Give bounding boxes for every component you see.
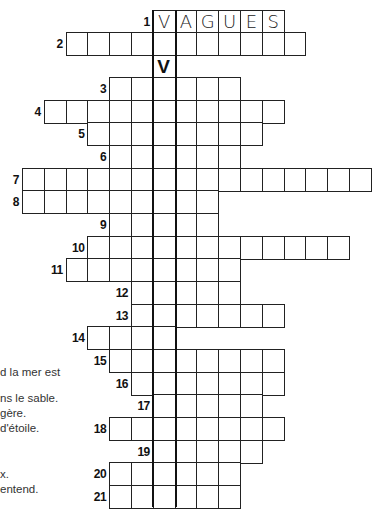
- grid-cell[interactable]: [196, 304, 219, 328]
- grid-cell[interactable]: [109, 485, 132, 509]
- grid-cell[interactable]: [196, 100, 219, 124]
- grid-cell[interactable]: [175, 372, 198, 396]
- grid-cell[interactable]: [153, 236, 176, 260]
- grid-cell[interactable]: [109, 145, 132, 169]
- grid-cell[interactable]: [240, 349, 263, 373]
- grid-cell[interactable]: [87, 258, 110, 282]
- grid-cell[interactable]: [66, 32, 89, 56]
- grid-cell[interactable]: [196, 485, 219, 509]
- grid-cell[interactable]: [131, 304, 154, 328]
- grid-cell[interactable]: [175, 168, 198, 192]
- grid-cell[interactable]: [262, 236, 285, 260]
- grid-cell[interactable]: [196, 190, 219, 214]
- grid-cell[interactable]: [153, 394, 176, 418]
- grid-cell[interactable]: [175, 145, 198, 169]
- grid-cell[interactable]: [175, 417, 198, 441]
- grid-cell[interactable]: [153, 485, 176, 509]
- grid-cell[interactable]: [218, 236, 241, 260]
- grid-cell[interactable]: [196, 394, 219, 418]
- grid-cell[interactable]: [196, 32, 219, 56]
- grid-cell[interactable]: [87, 236, 110, 260]
- grid-cell[interactable]: [305, 236, 328, 260]
- grid-cell[interactable]: [175, 304, 198, 328]
- grid-cell[interactable]: [109, 417, 132, 441]
- grid-cell[interactable]: [218, 485, 241, 509]
- grid-cell[interactable]: [240, 440, 263, 464]
- grid-cell[interactable]: [218, 349, 241, 373]
- grid-cell[interactable]: [131, 236, 154, 260]
- grid-cell[interactable]: [109, 122, 132, 146]
- grid-cell[interactable]: [131, 372, 154, 396]
- grid-cell[interactable]: [66, 168, 89, 192]
- grid-cell[interactable]: [218, 440, 241, 464]
- grid-cell[interactable]: [218, 32, 241, 56]
- grid-cell[interactable]: [153, 304, 176, 328]
- grid-cell[interactable]: [153, 440, 176, 464]
- grid-cell[interactable]: [240, 394, 263, 418]
- grid-cell[interactable]: [22, 168, 45, 192]
- grid-cell[interactable]: [131, 326, 154, 350]
- grid-cell[interactable]: [109, 213, 132, 237]
- grid-cell[interactable]: [262, 417, 285, 441]
- grid-cell[interactable]: [240, 417, 263, 441]
- grid-cell[interactable]: [131, 190, 154, 214]
- grid-cell[interactable]: G: [196, 10, 219, 34]
- grid-cell[interactable]: [109, 258, 132, 282]
- grid-cell[interactable]: [175, 281, 198, 305]
- grid-cell[interactable]: [175, 100, 198, 124]
- grid-cell[interactable]: U: [218, 10, 241, 34]
- grid-cell[interactable]: [153, 32, 176, 56]
- grid-cell[interactable]: [22, 190, 45, 214]
- grid-cell[interactable]: [131, 77, 154, 101]
- grid-cell[interactable]: [109, 326, 132, 350]
- grid-cell[interactable]: [196, 417, 219, 441]
- grid-cell[interactable]: [153, 145, 176, 169]
- grid-cell[interactable]: [131, 168, 154, 192]
- grid-cell[interactable]: [109, 236, 132, 260]
- grid-cell[interactable]: [87, 122, 110, 146]
- grid-cell[interactable]: [262, 100, 285, 124]
- grid-cell[interactable]: [153, 122, 176, 146]
- grid-cell[interactable]: [109, 77, 132, 101]
- grid-cell[interactable]: [240, 236, 263, 260]
- grid-cell[interactable]: [175, 236, 198, 260]
- grid-cell[interactable]: [218, 304, 241, 328]
- grid-cell[interactable]: [66, 190, 89, 214]
- grid-cell[interactable]: [175, 485, 198, 509]
- grid-cell[interactable]: [131, 462, 154, 486]
- grid-cell[interactable]: [131, 122, 154, 146]
- grid-cell[interactable]: [196, 462, 219, 486]
- grid-cell[interactable]: [196, 236, 219, 260]
- grid-cell[interactable]: [131, 281, 154, 305]
- grid-cell[interactable]: [240, 372, 263, 396]
- grid-cell[interactable]: [131, 417, 154, 441]
- grid-cell[interactable]: [66, 258, 89, 282]
- grid-cell[interactable]: [131, 349, 154, 373]
- grid-cell[interactable]: [153, 190, 176, 214]
- grid-cell[interactable]: [218, 168, 241, 192]
- grid-cell[interactable]: [262, 32, 285, 56]
- grid-cell[interactable]: [196, 372, 219, 396]
- grid-cell[interactable]: [240, 100, 263, 124]
- grid-cell[interactable]: [44, 190, 67, 214]
- grid-cell[interactable]: [153, 372, 176, 396]
- grid-cell[interactable]: V: [153, 10, 176, 34]
- grid-cell[interactable]: [240, 304, 263, 328]
- grid-cell[interactable]: [262, 349, 285, 373]
- grid-cell[interactable]: [153, 100, 176, 124]
- grid-cell[interactable]: [175, 122, 198, 146]
- grid-cell[interactable]: [196, 122, 219, 146]
- grid-cell[interactable]: [131, 100, 154, 124]
- grid-cell[interactable]: [175, 349, 198, 373]
- grid-cell[interactable]: [240, 122, 263, 146]
- grid-cell[interactable]: [262, 168, 285, 192]
- grid-cell[interactable]: [131, 213, 154, 237]
- grid-cell[interactable]: [175, 213, 198, 237]
- grid-cell[interactable]: [87, 326, 110, 350]
- grid-cell[interactable]: [175, 77, 198, 101]
- grid-cell[interactable]: [153, 417, 176, 441]
- grid-cell[interactable]: [349, 168, 372, 192]
- grid-cell[interactable]: [196, 145, 219, 169]
- grid-cell[interactable]: [327, 168, 350, 192]
- grid-cell[interactable]: [131, 258, 154, 282]
